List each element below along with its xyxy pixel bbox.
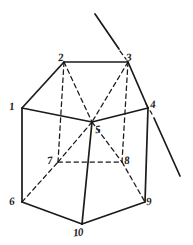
edge-1-5 (22, 108, 92, 122)
cutting-line-group (95, 14, 180, 176)
vertex-label-5: 5 (94, 124, 100, 135)
vertex-label-8: 8 (123, 155, 129, 166)
vertex-label-10: 10 (72, 227, 83, 239)
edge-5-10 (82, 122, 92, 224)
edge-1-2 (22, 62, 64, 108)
edge-2-5-hidden (64, 62, 92, 122)
edge-6-7-hidden (22, 162, 58, 202)
edge-8-9-hidden (122, 162, 145, 202)
edge-6-10 (22, 202, 82, 224)
edge-2-7-hidden (58, 62, 64, 162)
edge-3-8-hidden (122, 62, 128, 162)
vertex-label-6: 6 (8, 196, 14, 207)
edge-4-9 (145, 108, 148, 202)
cutting-line-lower (154, 118, 180, 176)
vertex-label-3: 3 (125, 52, 131, 63)
vertex-label-2: 2 (57, 52, 63, 63)
vertex-label-7: 7 (46, 155, 52, 166)
vertex-label-1: 1 (8, 101, 14, 112)
vertex-label-9: 9 (145, 196, 151, 207)
edge-5-7-hidden (58, 122, 92, 162)
edge-3-5-hidden (92, 62, 128, 122)
vertex-label-4: 4 (149, 99, 155, 110)
solid-edges-group (22, 62, 148, 224)
pentagonal-prism-figure: 12345678910 (0, 0, 193, 245)
edge-3-4 (128, 62, 148, 108)
edge-10-9 (82, 202, 145, 224)
edge-5-4 (92, 108, 148, 122)
dashed-edges-group (22, 62, 145, 202)
cutting-line-upper (95, 14, 119, 49)
